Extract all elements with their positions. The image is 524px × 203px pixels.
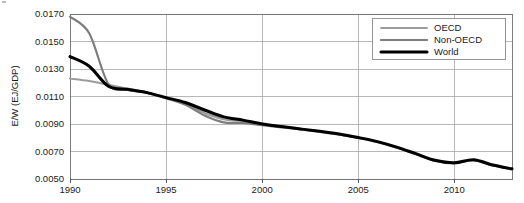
- y-tick-label: 0.0050: [35, 173, 64, 184]
- x-tick-label: 2005: [348, 184, 369, 195]
- legend-label-oecd: OECD: [434, 22, 462, 33]
- x-tick-label: 1990: [59, 184, 80, 195]
- energy-intensity-line-chart: 0.00500.00700.00900.01100.01300.01500.01…: [0, 0, 524, 203]
- y-tick-label: 0.0070: [35, 146, 64, 157]
- x-tick-label: 2000: [252, 184, 273, 195]
- y-tick-label: 0.0150: [35, 36, 64, 47]
- y-tick-label: 0.0110: [36, 91, 64, 102]
- chart-legend: OECDNon-OECDWorld: [372, 18, 505, 59]
- x-tick-label: 2010: [444, 184, 465, 195]
- chart-container: 0.00500.00700.00900.01100.01300.01500.01…: [0, 0, 524, 203]
- x-tick-label: 1995: [156, 184, 177, 195]
- y-tick-label: 0.0170: [35, 8, 64, 19]
- y-axis-title: E/W (EJ/GDP): [9, 65, 20, 126]
- y-tick-label: 0.0090: [35, 118, 64, 129]
- corner-artifact: [2, 1, 6, 3]
- legend-label-non-oecd: Non-OECD: [434, 34, 482, 45]
- y-tick-label: 0.0130: [35, 63, 64, 74]
- legend-label-world: World: [434, 46, 459, 57]
